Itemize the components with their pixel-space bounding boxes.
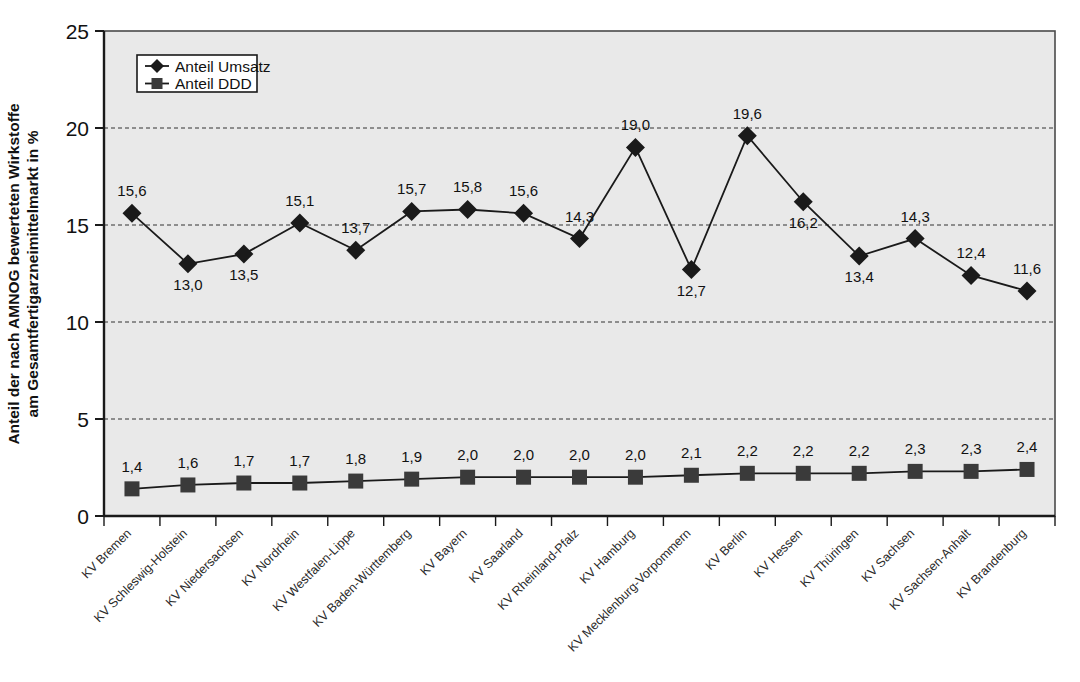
data-point-label: 13,4 bbox=[845, 268, 874, 285]
data-point-label: 2,4 bbox=[1017, 438, 1038, 455]
legend: Anteil UmsatzAnteil DDD bbox=[137, 55, 271, 92]
data-point-label: 13,0 bbox=[173, 276, 202, 293]
data-point-marker bbox=[796, 466, 811, 481]
data-point-label: 1,9 bbox=[401, 448, 422, 465]
x-axis-category-label: KV Hamburg bbox=[577, 526, 638, 587]
x-axis-category-label: KV Baden-Württemberg bbox=[310, 526, 414, 630]
y-axis-tick-label: 20 bbox=[66, 117, 89, 140]
x-axis-category-label: KV Thüringen bbox=[798, 526, 862, 590]
data-point-marker bbox=[852, 466, 867, 481]
data-point-label: 1,8 bbox=[345, 450, 366, 467]
data-point-label: 2,2 bbox=[737, 442, 758, 459]
data-point-label: 19,0 bbox=[621, 116, 650, 133]
x-axis-category-label: KV Mecklenburg-Vorpommern bbox=[565, 526, 693, 654]
y-axis-tick-label: 0 bbox=[77, 505, 89, 528]
data-point-label: 2,3 bbox=[961, 440, 982, 457]
x-axis-category-label: KV Bremen bbox=[79, 526, 134, 581]
data-point-marker bbox=[348, 474, 363, 489]
data-point-label: 12,7 bbox=[677, 282, 706, 299]
data-point-label: 15,7 bbox=[397, 180, 426, 197]
data-point-marker bbox=[628, 470, 643, 485]
data-point-label: 1,7 bbox=[289, 452, 310, 469]
y-axis-tick-label: 25 bbox=[66, 20, 89, 43]
data-point-label: 14,3 bbox=[901, 208, 930, 225]
data-point-label: 2,0 bbox=[513, 446, 534, 463]
chart-figure: 0510152025Anteil der nach AMNOG bewertet… bbox=[0, 0, 1080, 682]
data-point-label: 11,6 bbox=[1013, 260, 1041, 277]
data-point-marker bbox=[740, 466, 755, 481]
data-point-label: 14,3 bbox=[565, 208, 594, 225]
data-point-marker bbox=[404, 472, 419, 487]
data-point-label: 2,2 bbox=[793, 442, 814, 459]
data-point-label: 15,1 bbox=[285, 192, 314, 209]
data-point-label: 19,6 bbox=[733, 105, 762, 122]
data-point-marker bbox=[180, 477, 195, 492]
data-point-marker bbox=[460, 470, 475, 485]
data-point-label: 13,7 bbox=[341, 219, 370, 236]
data-point-label: 2,0 bbox=[625, 446, 646, 463]
data-point-marker bbox=[684, 468, 699, 483]
data-point-marker bbox=[964, 464, 979, 479]
x-axis-category-label: KV Nordrhein bbox=[239, 526, 302, 589]
x-axis-category-label: KV Schleswig-Holstein bbox=[91, 526, 190, 625]
data-point-label: 2,3 bbox=[905, 440, 926, 457]
legend-label-1: Anteil Umsatz bbox=[175, 58, 271, 75]
legend-marker-square-icon bbox=[152, 78, 163, 89]
data-point-marker bbox=[516, 470, 531, 485]
y-axis-tick-label: 10 bbox=[66, 311, 89, 334]
data-point-label: 1,4 bbox=[122, 458, 143, 475]
x-axis-category-label: KV Hessen bbox=[751, 526, 805, 580]
data-point-marker bbox=[292, 476, 307, 491]
data-point-label: 15,6 bbox=[117, 182, 146, 199]
data-point-marker bbox=[124, 481, 139, 496]
data-point-label: 2,0 bbox=[457, 446, 478, 463]
legend-label-2: Anteil DDD bbox=[175, 75, 252, 92]
data-point-label: 13,5 bbox=[229, 266, 258, 283]
data-point-label: 16,2 bbox=[789, 214, 818, 231]
data-point-label: 2,0 bbox=[569, 446, 590, 463]
data-point-label: 1,7 bbox=[233, 452, 254, 469]
data-point-label: 15,6 bbox=[509, 182, 538, 199]
data-point-label: 2,2 bbox=[849, 442, 870, 459]
y-axis-tick-label: 15 bbox=[66, 214, 89, 237]
data-point-label: 15,8 bbox=[453, 178, 482, 195]
data-point-marker bbox=[908, 464, 923, 479]
y-axis-tick-label: 5 bbox=[77, 408, 89, 431]
data-point-label: 2,1 bbox=[681, 444, 702, 461]
y-axis-title: Anteil der nach AMNOG bewerteten Wirksto… bbox=[5, 103, 41, 445]
x-axis-category-label: KV Sachsen bbox=[859, 526, 918, 585]
x-axis-category-label: KV Saarland bbox=[466, 526, 526, 586]
data-point-label: 12,4 bbox=[956, 244, 985, 261]
x-axis-category-label: KV Bayern bbox=[418, 526, 470, 578]
data-point-marker bbox=[236, 476, 251, 491]
data-point-marker bbox=[1020, 462, 1035, 477]
x-axis-category-label: KV Berlin bbox=[703, 526, 750, 573]
line-chart-canvas: 0510152025Anteil der nach AMNOG bewertet… bbox=[0, 0, 1080, 682]
data-point-marker bbox=[572, 470, 587, 485]
data-point-label: 1,6 bbox=[177, 454, 198, 471]
